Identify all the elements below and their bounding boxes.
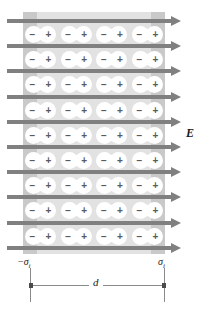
positive-charge-sign: + xyxy=(41,76,56,93)
negative-charge-sign: − xyxy=(96,228,111,245)
dipole: −+ xyxy=(132,26,163,43)
field-line-shaft xyxy=(7,69,173,73)
negative-charge-sign: − xyxy=(132,152,147,169)
positive-charge-sign: + xyxy=(148,177,163,194)
dipole: −+ xyxy=(61,202,92,219)
dipole-row: −+−+−+−+ xyxy=(25,177,163,194)
arrowhead-icon xyxy=(171,117,181,127)
dipole: −+ xyxy=(25,76,56,93)
arrowhead-icon xyxy=(171,167,181,177)
field-line-shaft xyxy=(7,19,173,23)
positive-charge-sign: + xyxy=(148,202,163,219)
dipole: −+ xyxy=(96,76,127,93)
positive-charge-sign: + xyxy=(148,76,163,93)
sigma-left-label: −σi xyxy=(18,256,31,270)
dipole: −+ xyxy=(96,127,127,144)
negative-charge-sign: − xyxy=(132,228,147,245)
positive-charge-sign: + xyxy=(112,26,127,43)
positive-charge-sign: + xyxy=(77,76,92,93)
dipole: −+ xyxy=(25,228,56,245)
negative-charge-sign: − xyxy=(132,26,147,43)
positive-charge-sign: + xyxy=(112,152,127,169)
positive-charge-sign: + xyxy=(77,228,92,245)
positive-charge-sign: + xyxy=(148,127,163,144)
dipole: −+ xyxy=(61,76,92,93)
arrowhead-icon xyxy=(171,41,181,51)
negative-charge-sign: − xyxy=(96,102,111,119)
positive-charge-sign: + xyxy=(148,152,163,169)
dipole-grid: −+−+−+−+−+−+−+−+−+−+−+−+−+−+−+−+−+−+−+−+… xyxy=(23,12,165,254)
dielectric-field-figure: −+−+−+−+−+−+−+−+−+−+−+−+−+−+−+−+−+−+−+−+… xyxy=(0,0,207,311)
positive-charge-sign: + xyxy=(148,51,163,68)
negative-charge-sign: − xyxy=(25,102,40,119)
arrowhead-icon xyxy=(171,92,181,102)
dimension-tick-left xyxy=(29,283,33,288)
negative-charge-sign: − xyxy=(61,202,76,219)
dipole-row: −+−+−+−+ xyxy=(25,26,163,43)
positive-charge-sign: + xyxy=(112,127,127,144)
negative-charge-sign: − xyxy=(96,202,111,219)
positive-charge-sign: + xyxy=(77,51,92,68)
positive-charge-sign: + xyxy=(41,152,56,169)
arrowhead-icon xyxy=(171,66,181,76)
dipole: −+ xyxy=(25,26,56,43)
arrowhead-icon xyxy=(171,218,181,228)
field-line-shaft xyxy=(7,145,173,149)
negative-charge-sign: − xyxy=(61,76,76,93)
dipole: −+ xyxy=(96,177,127,194)
dipole: −+ xyxy=(25,202,56,219)
dipole-row: −+−+−+−+ xyxy=(25,76,163,93)
dipole: −+ xyxy=(132,152,163,169)
field-line-shaft xyxy=(7,170,173,174)
dipole: −+ xyxy=(96,102,127,119)
dipole: −+ xyxy=(96,228,127,245)
positive-charge-sign: + xyxy=(41,127,56,144)
positive-charge-sign: + xyxy=(77,26,92,43)
negative-charge-sign: − xyxy=(25,51,40,68)
negative-charge-sign: − xyxy=(25,228,40,245)
negative-charge-sign: − xyxy=(96,152,111,169)
dipole: −+ xyxy=(25,177,56,194)
thickness-label: d xyxy=(89,276,103,288)
positive-charge-sign: + xyxy=(148,26,163,43)
positive-charge-sign: + xyxy=(41,26,56,43)
negative-charge-sign: − xyxy=(132,177,147,194)
dipole: −+ xyxy=(61,26,92,43)
positive-charge-sign: + xyxy=(41,51,56,68)
negative-charge-sign: − xyxy=(61,26,76,43)
negative-charge-sign: − xyxy=(61,127,76,144)
field-line-shaft xyxy=(7,195,173,199)
positive-charge-sign: + xyxy=(41,228,56,245)
negative-charge-sign: − xyxy=(25,76,40,93)
negative-charge-sign: − xyxy=(61,177,76,194)
negative-charge-sign: − xyxy=(132,51,147,68)
positive-charge-sign: + xyxy=(77,152,92,169)
field-line-shaft xyxy=(7,246,173,250)
negative-charge-sign: − xyxy=(132,102,147,119)
negative-charge-sign: − xyxy=(96,26,111,43)
dipole: −+ xyxy=(25,51,56,68)
dipole-row: −+−+−+−+ xyxy=(25,102,163,119)
dipole: −+ xyxy=(96,26,127,43)
positive-charge-sign: + xyxy=(77,202,92,219)
negative-charge-sign: − xyxy=(61,51,76,68)
negative-charge-sign: − xyxy=(96,76,111,93)
field-line-shaft xyxy=(7,44,173,48)
positive-charge-sign: + xyxy=(112,51,127,68)
dipole-row: −+−+−+−+ xyxy=(25,228,163,245)
negative-charge-sign: − xyxy=(25,26,40,43)
negative-charge-sign: − xyxy=(96,51,111,68)
arrowhead-icon xyxy=(171,142,181,152)
negative-charge-sign: − xyxy=(132,127,147,144)
dipole: −+ xyxy=(61,127,92,144)
field-line-shaft xyxy=(7,221,173,225)
negative-charge-sign: − xyxy=(132,202,147,219)
dipole: −+ xyxy=(61,177,92,194)
dipole: −+ xyxy=(132,202,163,219)
dipole: −+ xyxy=(25,102,56,119)
positive-charge-sign: + xyxy=(148,228,163,245)
negative-charge-sign: − xyxy=(61,152,76,169)
dipole: −+ xyxy=(25,152,56,169)
positive-charge-sign: + xyxy=(41,102,56,119)
arrowhead-icon xyxy=(171,192,181,202)
